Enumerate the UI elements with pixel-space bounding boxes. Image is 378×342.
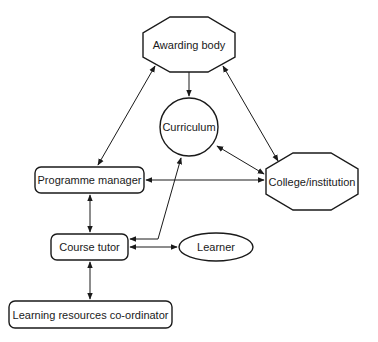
edge-awarding-college xyxy=(223,66,278,161)
curriculum-label: Curriculum xyxy=(160,98,218,156)
learner-label: Learner xyxy=(179,233,253,261)
edge-awarding-programme xyxy=(98,66,155,165)
edge-curriculum-college xyxy=(217,146,264,174)
programme-manager-label: Programme manager xyxy=(35,167,144,193)
course-tutor-label: Course tutor xyxy=(51,234,128,260)
learning-resources-label: Learning resources co-ordinator xyxy=(9,301,172,328)
college-institution-label: College/institution xyxy=(266,153,358,210)
awarding-body-label: Awarding body xyxy=(143,17,235,72)
